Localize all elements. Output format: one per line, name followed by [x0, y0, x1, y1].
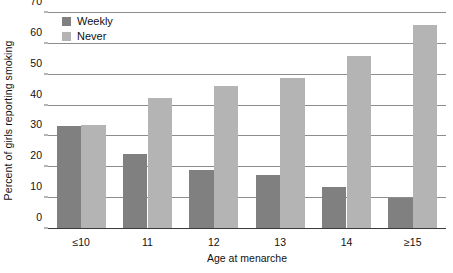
bar-group: [57, 13, 106, 229]
legend-item: Weekly: [62, 15, 113, 28]
bar-group: [388, 13, 437, 229]
bar-chart: Percent of girls reporting smoking 01020…: [0, 0, 453, 273]
bars-layer: [48, 13, 446, 229]
y-tick-label: 0: [36, 211, 42, 223]
legend: WeeklyNever: [62, 15, 113, 43]
x-axis-title: Age at menarche: [48, 252, 446, 264]
legend-item: Never: [62, 30, 113, 43]
y-tick-label: 20: [30, 149, 42, 161]
legend-swatch-icon: [62, 17, 71, 26]
bar-group: [256, 13, 305, 229]
y-axis-title: Percent of girls reporting smoking: [2, 6, 16, 235]
x-tick-label: ≤10: [72, 236, 89, 248]
legend-label: Weekly: [77, 16, 113, 27]
bar-weekly: [57, 126, 82, 229]
legend-swatch-icon: [62, 32, 71, 41]
bar-group: [189, 13, 238, 229]
bar-weekly: [189, 170, 214, 229]
bar-weekly: [388, 198, 413, 229]
bar-never: [81, 125, 106, 229]
y-tick-label: 10: [30, 180, 42, 192]
bar-never: [413, 25, 438, 229]
bar-never: [148, 98, 173, 229]
bar-weekly: [322, 187, 347, 229]
y-tick-label: 50: [30, 57, 42, 69]
bar-never: [214, 86, 239, 229]
y-tick-label: 30: [30, 118, 42, 130]
y-tick-label: 60: [30, 26, 42, 38]
x-tick-label: 12: [208, 236, 220, 248]
x-tick-label: 11: [142, 236, 153, 248]
bar-weekly: [256, 175, 281, 229]
bar-never: [347, 56, 372, 229]
x-tick-label: 13: [274, 236, 286, 248]
bar-never: [280, 78, 305, 229]
bar-weekly: [123, 154, 148, 229]
legend-label: Never: [77, 31, 106, 42]
x-tick-label: ≥15: [404, 236, 421, 248]
bar-group: [322, 13, 371, 229]
x-axis-line: [48, 228, 446, 229]
bar-group: [123, 13, 172, 229]
x-tick-label: 14: [341, 236, 353, 248]
y-tick-label: 70: [30, 0, 42, 7]
y-tick-label: 40: [30, 88, 42, 100]
plot-area: 010203040506070 ≤1011121314≥15: [48, 13, 446, 229]
